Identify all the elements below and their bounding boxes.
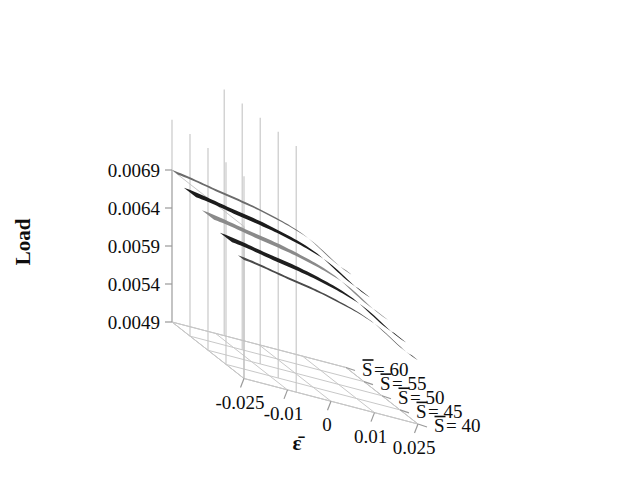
z-axis-ticks: S= 60S= 55S= 50S= 45S= 40: [346, 359, 480, 437]
z-tick-label-symbol: S: [434, 415, 445, 436]
y-axis: [165, 170, 172, 322]
z-tick-mark: [418, 424, 427, 427]
y-tick-label: 0.0049: [108, 312, 160, 333]
z-tick-label-value: = 40: [446, 415, 480, 436]
chart-container: S= 60S= 55S= 50S= 45S= 40 0.00690.00640.…: [0, 0, 619, 481]
y-axis-title: Load: [11, 218, 35, 265]
floor-grid-line-x: [259, 345, 331, 402]
y-tick-label: 0.0054: [108, 274, 161, 295]
ribbon-surface: [184, 188, 370, 298]
x-tick-mark: [328, 401, 332, 410]
y-tick-label: 0.0064: [108, 198, 161, 219]
x-tick-mark: [415, 424, 419, 433]
x-tick-mark: [284, 390, 288, 399]
x-tick-label: 0: [322, 414, 332, 435]
y-tick-label: 0.0059: [108, 236, 160, 257]
x-tick-label: 0.01: [354, 426, 387, 447]
x-axis-title: ε̄: [293, 431, 306, 455]
z-tick-label-symbol: S: [398, 387, 409, 408]
3d-surface-chart: S= 60S= 55S= 50S= 45S= 40 0.00690.00640.…: [0, 0, 619, 481]
z-tick-label-symbol: S: [416, 401, 427, 422]
x-tick-label: -0.01: [264, 403, 304, 424]
z-tick-label-symbol: S: [362, 359, 373, 380]
x-tick-mark: [371, 413, 375, 422]
tick-labels: 0.00690.00640.00590.00540.0049Load-0.025…: [11, 160, 435, 458]
y-tick-label: 0.0069: [108, 160, 160, 181]
x-tick-mark: [241, 379, 245, 388]
ribbon-surface: [202, 210, 388, 320]
x-tick-label: -0.025: [215, 392, 264, 413]
x-tick-label: 0.025: [393, 437, 436, 458]
z-tick-label: S= 40: [434, 415, 480, 436]
ribbon-surface: [220, 233, 406, 343]
x-axis-title-text: ε̄: [293, 431, 306, 455]
z-tick-label-symbol: S: [380, 373, 391, 394]
